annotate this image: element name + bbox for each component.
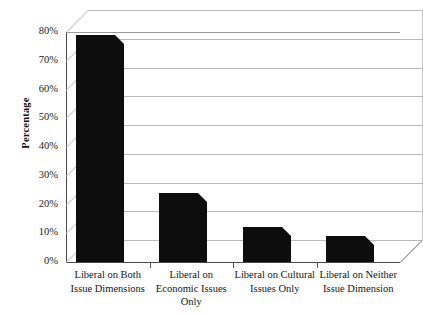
y-tick-label: 20% bbox=[24, 199, 58, 209]
gridline bbox=[88, 211, 422, 212]
x-category-label-line: Liberal on Neither bbox=[317, 268, 401, 282]
bar-1 bbox=[76, 35, 124, 263]
y-tick-label: 70% bbox=[24, 55, 58, 65]
bar-left-bevel bbox=[159, 193, 168, 202]
y-tick-label: 40% bbox=[24, 141, 58, 151]
y-tick-label: 50% bbox=[24, 112, 58, 122]
bar-3 bbox=[243, 227, 291, 262]
bar-front-face bbox=[243, 236, 291, 262]
back-wall bbox=[88, 10, 422, 240]
y-axis-tick-labels: 0%10%20%30%40%50%60%70%80% bbox=[22, 0, 58, 315]
x-category-label-line: Economic Issues bbox=[150, 282, 234, 296]
gridline bbox=[88, 125, 422, 126]
bar-left-bevel bbox=[243, 227, 252, 236]
x-category-label-line: Only bbox=[150, 295, 234, 309]
bar-2 bbox=[159, 193, 207, 262]
y-tick-label: 10% bbox=[24, 227, 58, 237]
x-category-label-line: Liberal on bbox=[150, 268, 234, 282]
y-tick-label: 60% bbox=[24, 84, 58, 94]
x-category-label-3: Liberal on CulturalIssues Only bbox=[233, 268, 317, 295]
x-category-label-line: Liberal on Both bbox=[66, 268, 150, 282]
gridline bbox=[88, 154, 422, 155]
x-tick-mark bbox=[150, 262, 151, 268]
plot-area bbox=[66, 32, 400, 262]
x-category-label-line: Issues Only bbox=[233, 282, 317, 296]
x-category-label-line: Liberal on Cultural bbox=[233, 268, 317, 282]
gridline bbox=[88, 96, 422, 97]
bar-front-face bbox=[76, 44, 124, 263]
y-tick-label: 80% bbox=[24, 26, 58, 36]
bar-left-bevel bbox=[326, 236, 335, 245]
x-category-label-1: Liberal on BothIssue Dimensions bbox=[66, 268, 150, 295]
x-tick-mark bbox=[233, 262, 234, 268]
gridline bbox=[88, 68, 422, 69]
x-axis-category-labels: Liberal on BothIssue DimensionsLiberal o… bbox=[66, 268, 400, 315]
floor-right-edge bbox=[400, 240, 423, 263]
bar-4 bbox=[326, 236, 374, 262]
y-tick-label: 0% bbox=[24, 256, 58, 266]
y-tick-label: 30% bbox=[24, 170, 58, 180]
bar-left-bevel bbox=[76, 35, 85, 44]
x-category-label-line: Issue Dimensions bbox=[66, 282, 150, 296]
x-tick-mark bbox=[317, 262, 318, 268]
gridline bbox=[88, 39, 422, 40]
bar-front-face bbox=[326, 245, 374, 262]
gridline bbox=[88, 183, 422, 184]
x-category-label-line: Issue Dimension bbox=[317, 282, 401, 296]
depth-connector bbox=[66, 10, 89, 33]
gridline bbox=[88, 10, 422, 11]
bar-front-face bbox=[159, 202, 207, 262]
x-category-label-4: Liberal on NeitherIssue Dimension bbox=[317, 268, 401, 295]
x-category-label-2: Liberal onEconomic IssuesOnly bbox=[150, 268, 234, 309]
